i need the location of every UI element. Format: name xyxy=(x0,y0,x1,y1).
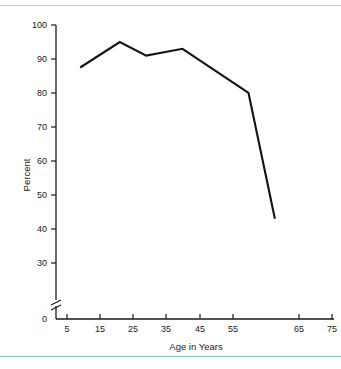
y-tick-label-70: 70 xyxy=(37,122,47,132)
y-tick-label-50: 50 xyxy=(37,190,47,200)
x-tick-label-75: 75 xyxy=(327,324,337,334)
x-tick-label-5: 5 xyxy=(64,324,69,334)
y-tick-label-100: 100 xyxy=(32,20,47,30)
data-series-line xyxy=(80,42,275,219)
figure-root: 100 90 80 70 60 50 40 30 0 5 15 25 35 45… xyxy=(0,0,341,369)
x-tick-label-55: 55 xyxy=(228,324,238,334)
y-tick-marks xyxy=(51,25,56,263)
x-tick-label-45: 45 xyxy=(195,324,205,334)
y-tick-label-0: 0 xyxy=(42,314,47,324)
line-chart: 100 90 80 70 60 50 40 30 0 5 15 25 35 45… xyxy=(0,0,341,369)
x-tick-label-65: 65 xyxy=(294,324,304,334)
y-tick-label-60: 60 xyxy=(37,156,47,166)
y-axis-title: Percent xyxy=(21,158,32,191)
x-tick-marks xyxy=(67,314,332,319)
x-axis-title: Age in Years xyxy=(169,341,223,352)
x-tick-label-35: 35 xyxy=(161,324,171,334)
y-tick-label-90: 90 xyxy=(37,54,47,64)
x-tick-label-25: 25 xyxy=(128,324,138,334)
x-tick-label-15: 15 xyxy=(95,324,105,334)
y-tick-label-80: 80 xyxy=(37,88,47,98)
y-tick-label-30: 30 xyxy=(37,258,47,268)
y-tick-label-40: 40 xyxy=(37,224,47,234)
